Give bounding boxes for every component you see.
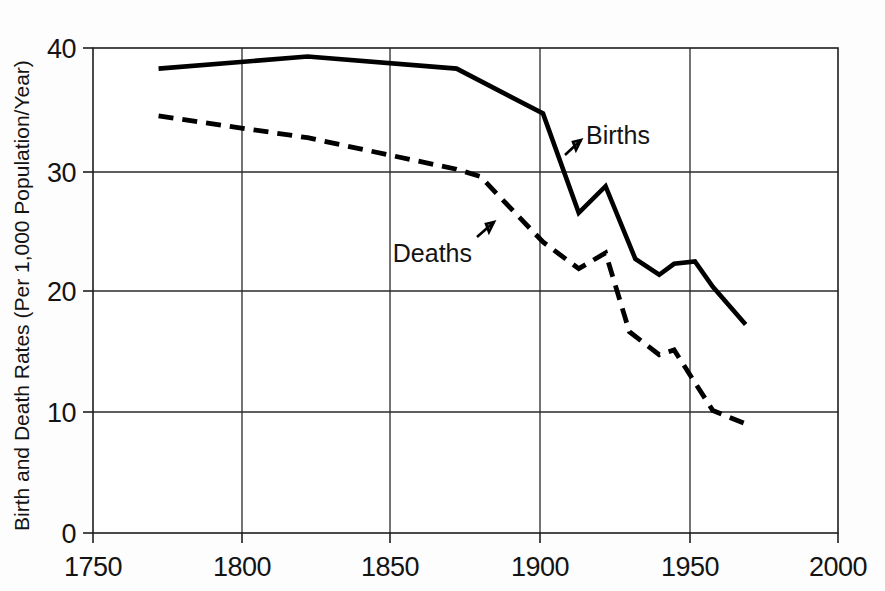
series-annotation-deaths: Deaths bbox=[393, 239, 472, 267]
y-axis-tick-labels: 40 30 20 10 0 bbox=[47, 34, 76, 549]
chart-page: 40 30 20 10 0 1750 1800 1850 1900 1950 2… bbox=[0, 0, 885, 591]
x-tick-label-1900: 1900 bbox=[511, 552, 569, 582]
birth-death-rates-line-chart: 40 30 20 10 0 1750 1800 1850 1900 1950 2… bbox=[0, 0, 885, 591]
y-tick-label-40: 40 bbox=[47, 34, 76, 64]
x-tick-marks bbox=[93, 533, 838, 543]
x-tick-label-1750: 1750 bbox=[64, 552, 122, 582]
y-tick-label-20: 20 bbox=[47, 277, 76, 307]
series-annotation-births: Births bbox=[586, 121, 650, 149]
x-tick-label-1850: 1850 bbox=[361, 552, 419, 582]
y-tick-label-10: 10 bbox=[47, 398, 76, 428]
x-tick-label-1950: 1950 bbox=[661, 552, 719, 582]
y-axis-title: Birth and Death Rates (Per 1,000 Populat… bbox=[10, 60, 33, 531]
y-tick-marks bbox=[83, 48, 93, 533]
x-tick-label-1800: 1800 bbox=[213, 552, 271, 582]
x-axis-tick-labels: 1750 1800 1850 1900 1950 2000 bbox=[64, 552, 867, 582]
y-tick-label-0: 0 bbox=[61, 519, 76, 549]
y-tick-label-30: 30 bbox=[47, 158, 76, 188]
x-tick-label-2000: 2000 bbox=[809, 552, 867, 582]
